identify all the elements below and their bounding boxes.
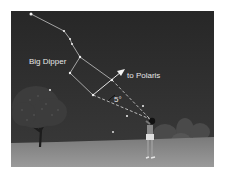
night-sky-illustration: Big Dipper to Polaris 5° (11, 11, 214, 167)
big-dipper-label: Big Dipper (29, 57, 67, 66)
star-dubhe (111, 79, 113, 81)
star-alioth (71, 43, 73, 45)
star-megrez (79, 56, 81, 58)
star-mizar (63, 30, 65, 32)
star-alkaid (30, 13, 33, 16)
star-merak (92, 94, 94, 96)
star-alcor (69, 38, 71, 40)
star-phecda (69, 72, 71, 74)
to-polaris-label: to Polaris (127, 71, 160, 80)
angle-label: 5° (114, 95, 122, 104)
